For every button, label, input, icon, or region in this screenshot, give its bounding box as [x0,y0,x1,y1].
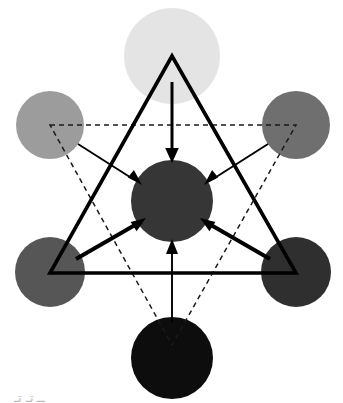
arrow-lower-right-to-center [200,218,270,259]
arrow-upper-right-to-center [204,144,268,185]
node-center[interactable] [131,160,213,242]
node-bottom[interactable] [131,317,213,399]
diagram-svg [0,0,343,403]
caption-fragment: ــ تـ تـ [0,393,343,403]
arrow-bottom-to-center [166,239,178,322]
arrow-upper-left-to-center [78,144,142,185]
arrowhead-dl [204,170,218,185]
caption-fragment-text: ــ تـ تـ [0,393,45,403]
arrow-lower-left-to-center [76,218,146,259]
diagram-canvas: ــ تـ تـ [0,0,343,403]
